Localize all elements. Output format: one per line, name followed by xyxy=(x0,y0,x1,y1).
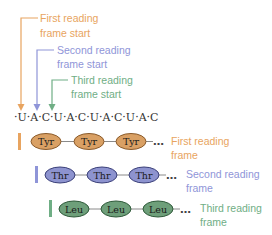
amino-acid-label: Thr xyxy=(136,170,153,181)
third-start-label-line1: Third reading xyxy=(71,74,133,86)
amino-acid-label: Leu xyxy=(107,204,125,215)
frame-1-bar xyxy=(18,133,21,150)
mrna-sequence: ·U·A·C·U·A·C·U·A·C·U·A·C xyxy=(14,111,158,124)
amino-acid-label: Leu xyxy=(65,204,83,215)
first-start-label-line1: First reading xyxy=(40,12,99,24)
continuation-ellipsis: … xyxy=(180,203,191,216)
frame-3-row: Leu Leu Leu … Third reading frame xyxy=(49,200,262,228)
reading-frames-diagram: First reading frame start Second reading… xyxy=(0,0,272,235)
third-frame-start-callout: Third reading frame start xyxy=(49,74,134,111)
first-start-arrow-icon xyxy=(18,104,25,111)
frame-1-row: Tyr Tyr Tyr … First reading frame xyxy=(18,133,230,161)
continuation-ellipsis: … xyxy=(153,135,164,148)
frame-3-bar xyxy=(49,200,52,217)
amino-acid-label: Tyr xyxy=(123,136,140,147)
amino-acid-label: Tyr xyxy=(81,136,98,147)
third-start-leader-line xyxy=(52,80,68,104)
third-start-label-line2: frame start xyxy=(71,88,121,100)
second-start-arrow-icon xyxy=(34,104,41,111)
first-start-leader-line xyxy=(21,18,38,104)
continuation-ellipsis: … xyxy=(166,169,177,182)
frame-2-bar xyxy=(35,166,38,183)
amino-acid-label: Leu xyxy=(149,204,167,215)
frame-1-label-line2: frame xyxy=(171,149,198,161)
frame-3-label-line1: Third reading xyxy=(200,202,262,214)
amino-acid-label: Tyr xyxy=(38,136,55,147)
frame-2-label-line2: frame xyxy=(186,182,213,194)
second-start-label-line1: Second reading xyxy=(57,44,131,56)
amino-acid-label: Thr xyxy=(94,170,111,181)
second-start-label-line2: frame start xyxy=(57,58,107,70)
frame-1-label-line1: First reading xyxy=(171,135,230,147)
amino-acid-label: Thr xyxy=(52,170,69,181)
third-start-arrow-icon xyxy=(49,104,56,111)
frame-2-label-line1: Second reading xyxy=(186,168,260,180)
first-start-label-line2: frame start xyxy=(40,27,90,39)
frame-3-label-line2: frame xyxy=(200,216,227,228)
frame-2-row: Thr Thr Thr … Second reading frame xyxy=(35,166,260,194)
